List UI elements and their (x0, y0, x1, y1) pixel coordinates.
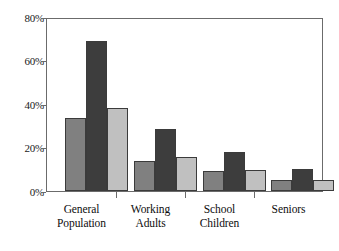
bar-school-children-series3 (245, 170, 266, 191)
bar-school-children-series2 (224, 152, 245, 191)
category-label-line2: Adults (116, 217, 185, 231)
y-axis-tick-label: 20% (4, 143, 44, 154)
bar-seniors-series2 (292, 169, 313, 191)
bar-general-population-series1 (65, 118, 86, 191)
bar-chart: 80% 60% 40% 20% 0% General Population Wo… (0, 0, 339, 251)
bar-working-adults-series1 (134, 161, 155, 191)
x-axis-tick-mark (185, 192, 186, 198)
x-axis-category-label-school-children: School Children (185, 203, 254, 230)
x-axis-category-label-working-adults: Working Adults (116, 203, 185, 230)
y-axis-tick-mark (41, 192, 46, 193)
y-axis-tick-label: 0% (4, 187, 44, 198)
bar-seniors-series3 (313, 180, 334, 191)
x-axis-tick-mark (254, 192, 255, 198)
category-label-line1: Working (116, 203, 185, 217)
category-label-line1: Seniors (254, 203, 323, 217)
bar-school-children-series1 (203, 171, 224, 191)
bar-working-adults-series2 (155, 129, 176, 191)
plot-area (46, 18, 323, 192)
y-axis-tick-label: 40% (4, 100, 44, 111)
y-axis-tick-label: 60% (4, 56, 44, 67)
bar-working-adults-series3 (176, 157, 197, 191)
y-axis-tick-label: 80% (4, 13, 44, 24)
category-label-line1: School (185, 203, 254, 217)
category-label-line2: Children (185, 217, 254, 231)
bar-general-population-series3 (107, 108, 128, 191)
x-axis-category-label-general-population: General Population (47, 203, 116, 230)
x-axis-category-label-seniors: Seniors (254, 203, 323, 217)
x-axis-tick-mark (116, 192, 117, 198)
category-label-line2: Population (47, 217, 116, 231)
bar-seniors-series1 (271, 180, 292, 191)
category-label-line1: General (47, 203, 116, 217)
bar-general-population-series2 (86, 41, 107, 191)
